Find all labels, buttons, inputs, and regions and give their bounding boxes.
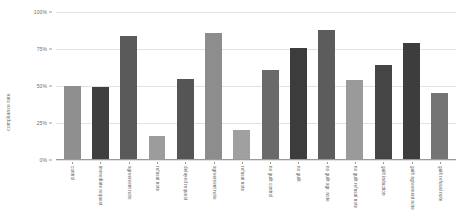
x-tick-label: no guilt agr. note	[324, 166, 329, 202]
y-tick-label: 75%	[37, 46, 47, 52]
y-tick-mark	[49, 86, 52, 87]
x-tick-label: immediate request	[98, 166, 103, 206]
y-tick-label: 100%	[34, 9, 47, 15]
x-tick-label: agreement note	[126, 166, 131, 200]
bar-slot	[426, 12, 454, 160]
x-tick-mark	[214, 162, 215, 164]
x-tick-mark	[242, 162, 243, 164]
x-tick-label: no guilt	[296, 166, 301, 182]
bar-chart: compliance rate 0%25%50%75%100% controli…	[0, 0, 465, 224]
bar	[431, 93, 448, 160]
x-tick-mark	[355, 162, 356, 164]
x-tick-label: agreement note	[211, 166, 216, 200]
x-tick-label: guilt agreement note	[409, 166, 414, 210]
bar	[120, 36, 137, 160]
x-axis-labels: controlimmediate requestagreement notere…	[56, 162, 456, 222]
x-tick-mark	[157, 162, 158, 164]
x-tick-mark	[298, 162, 299, 164]
bar-series	[56, 12, 456, 160]
bar	[233, 130, 250, 160]
x-label-slot: guilt refusal note	[426, 162, 454, 222]
bar	[346, 80, 363, 160]
plot-area	[56, 12, 456, 160]
x-label-slot: refusal note	[228, 162, 256, 222]
x-axis-line	[56, 159, 456, 160]
x-tick-mark	[383, 162, 384, 164]
bar-slot	[397, 12, 425, 160]
bar-slot	[313, 12, 341, 160]
bar	[403, 43, 420, 160]
bar	[205, 33, 222, 160]
bar-slot	[341, 12, 369, 160]
bar-slot	[86, 12, 114, 160]
bar-slot	[256, 12, 284, 160]
bar-slot	[369, 12, 397, 160]
y-tick-mark	[49, 123, 52, 124]
y-tick-label: 25%	[37, 120, 47, 126]
x-tick-mark	[72, 162, 73, 164]
bar-slot	[58, 12, 86, 160]
x-tick-label: no guilt control	[268, 166, 273, 197]
y-axis-ticks: 0%25%50%75%100%	[0, 12, 52, 160]
x-tick-mark	[327, 162, 328, 164]
x-label-slot: delayed request	[171, 162, 199, 222]
bar	[318, 30, 335, 160]
x-tick-label: delayed request	[183, 166, 188, 200]
x-label-slot: agreement note	[115, 162, 143, 222]
x-tick-label: no guilt refusal note	[352, 166, 357, 208]
x-label-slot: guilt agreement note	[397, 162, 425, 222]
bar-slot	[171, 12, 199, 160]
x-tick-mark	[412, 162, 413, 164]
x-tick-mark	[440, 162, 441, 164]
x-tick-label: refusal note	[154, 166, 159, 191]
bar-slot	[284, 12, 312, 160]
x-tick-mark	[100, 162, 101, 164]
x-tick-mark	[129, 162, 130, 164]
x-tick-mark	[185, 162, 186, 164]
y-tick-label: 50%	[37, 83, 47, 89]
bar	[92, 87, 109, 160]
x-label-slot: no guilt refusal note	[341, 162, 369, 222]
bar	[177, 79, 194, 160]
x-tick-label: guilt induction	[381, 166, 386, 196]
y-tick-mark	[49, 160, 52, 161]
x-label-slot: guilt induction	[369, 162, 397, 222]
x-tick-mark	[270, 162, 271, 164]
bar	[375, 65, 392, 160]
bar	[149, 136, 166, 160]
x-label-slot: no guilt	[284, 162, 312, 222]
x-label-slot: no guilt agr. note	[313, 162, 341, 222]
y-tick-label: 0%	[40, 157, 47, 163]
x-tick-label: guilt refusal note	[437, 166, 442, 202]
x-label-slot: agreement note	[199, 162, 227, 222]
y-tick-mark	[49, 49, 52, 50]
x-label-slot: refusal note	[143, 162, 171, 222]
bar-slot	[115, 12, 143, 160]
x-label-slot: immediate request	[86, 162, 114, 222]
bar	[262, 70, 279, 160]
x-label-slot: control	[58, 162, 86, 222]
bar-slot	[199, 12, 227, 160]
bar-slot	[228, 12, 256, 160]
bar	[64, 86, 81, 160]
gridline	[56, 160, 456, 161]
y-tick-mark	[49, 12, 52, 13]
bar	[290, 48, 307, 160]
x-label-slot: no guilt control	[256, 162, 284, 222]
x-tick-label: refusal note	[239, 166, 244, 191]
x-tick-label: control	[70, 166, 75, 181]
bar-slot	[143, 12, 171, 160]
